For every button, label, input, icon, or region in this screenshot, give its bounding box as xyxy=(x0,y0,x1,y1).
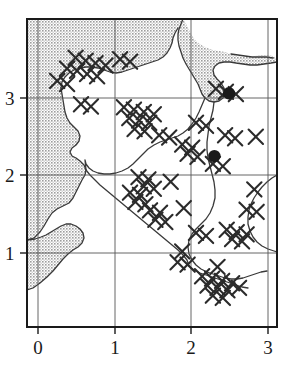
y-tick-label-1: 1 xyxy=(5,244,15,263)
x-tick-label-0: 0 xyxy=(33,338,43,357)
filled-dot-marker xyxy=(208,150,220,162)
x-tick-label-3: 3 xyxy=(263,338,273,357)
distribution-map-figure: 0 1 2 3 1 2 3 xyxy=(0,0,301,373)
x-tick-label-2: 2 xyxy=(186,338,196,357)
y-tick-label-2: 2 xyxy=(5,166,15,185)
x-tick-label-1: 1 xyxy=(110,338,120,357)
filled-dot-marker xyxy=(223,87,235,99)
y-tick-label-3: 3 xyxy=(5,89,15,108)
map-canvas xyxy=(0,0,301,373)
